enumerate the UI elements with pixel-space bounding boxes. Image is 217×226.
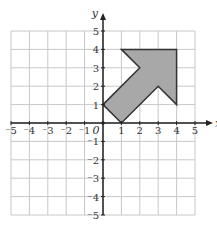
y-tick-label: 3 (93, 63, 99, 74)
y-tick-label: 1 (93, 100, 99, 111)
tick-labels: ⁻5⁻4⁻3⁻2⁻11234554321⁻1⁻2⁻3⁻4⁻50xy (5, 7, 217, 221)
x-tick-label: 2 (137, 125, 143, 136)
coordinate-grid: ⁻5⁻4⁻3⁻2⁻11234554321⁻1⁻2⁻3⁻4⁻50xy (0, 0, 217, 226)
y-axis-label: y (91, 7, 99, 20)
x-tick-label: ⁻2 (60, 125, 72, 136)
x-tick-label: 3 (155, 125, 161, 136)
origin-dot (101, 121, 105, 125)
x-tick-label: 1 (118, 125, 124, 136)
x-axis-arrow-icon (206, 120, 213, 126)
x-axis-label: x (215, 117, 217, 130)
y-tick-label: 5 (93, 26, 99, 37)
x-tick-label: ⁻1 (79, 125, 91, 136)
y-tick-label: 2 (93, 81, 99, 92)
y-axis-arrow-icon (100, 13, 106, 20)
y-tick-label: ⁻1 (87, 136, 99, 147)
x-tick-label: 5 (192, 125, 198, 136)
x-tick-label: 4 (173, 125, 179, 136)
y-tick-label: ⁻4 (87, 192, 99, 203)
x-tick-label: ⁻3 (42, 125, 54, 136)
y-tick-label: ⁻5 (87, 210, 99, 221)
origin-label: 0 (93, 124, 100, 137)
y-tick-label: ⁻2 (87, 155, 99, 166)
x-tick-label: ⁻5 (5, 125, 17, 136)
y-tick-label: ⁻3 (87, 173, 99, 184)
y-tick-label: 4 (93, 44, 99, 55)
x-tick-label: ⁻4 (24, 125, 36, 136)
